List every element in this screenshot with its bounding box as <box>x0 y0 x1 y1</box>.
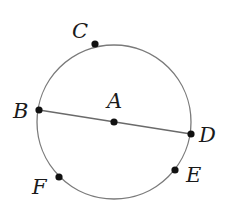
circle-diagram: CBADEF <box>0 0 238 213</box>
diagram-canvas: CBADEF <box>0 0 238 213</box>
point-c-label: C <box>72 19 88 43</box>
point-a-label: A <box>105 89 122 113</box>
point-b-dot <box>35 106 42 113</box>
point-d-dot <box>187 130 194 137</box>
point-b-label: B <box>12 99 28 123</box>
points-group: CBADEF <box>12 19 216 199</box>
point-a-dot <box>110 118 117 125</box>
point-f-label: F <box>31 175 48 199</box>
point-e-label: E <box>185 163 201 187</box>
point-c-dot <box>91 40 98 47</box>
point-f-dot <box>55 173 62 180</box>
point-d-label: D <box>198 123 216 147</box>
point-e-dot <box>171 166 178 173</box>
